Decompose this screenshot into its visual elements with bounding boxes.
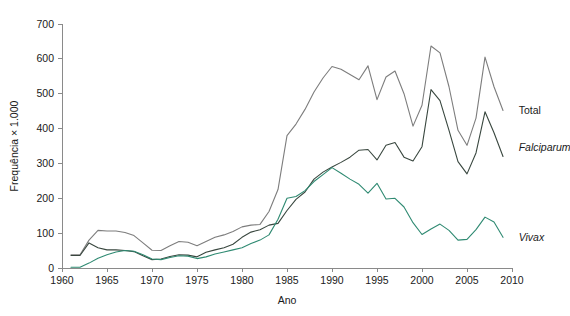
x-tick-label: 1970 bbox=[140, 274, 164, 286]
x-tick-label: 2000 bbox=[410, 274, 434, 286]
y-tick-label: 500 bbox=[36, 87, 54, 99]
series-line-falciparum bbox=[71, 90, 503, 260]
x-tick-label: 2005 bbox=[455, 274, 479, 286]
x-tick-label: 2010 bbox=[500, 274, 524, 286]
y-axis-ticks: 0100200300400500600700 bbox=[36, 18, 62, 274]
x-axis-ticks: 1960196519701975198019851990199520002005… bbox=[50, 268, 524, 286]
y-tick-label: 200 bbox=[36, 192, 54, 204]
series-label-total: Total bbox=[519, 104, 541, 116]
line-chart-svg: 0100200300400500600700 19601965197019751… bbox=[0, 0, 570, 316]
series-labels-group: TotalFalciparumVivax bbox=[519, 104, 570, 243]
x-tick-label: 1985 bbox=[275, 274, 299, 286]
y-tick-label: 300 bbox=[36, 157, 54, 169]
series-line-total bbox=[71, 46, 503, 255]
x-tick-label: 1995 bbox=[365, 274, 389, 286]
series-line-vivax bbox=[71, 168, 503, 268]
chart-figure: 0100200300400500600700 19601965197019751… bbox=[0, 0, 570, 316]
y-tick-label: 700 bbox=[36, 18, 54, 30]
x-tick-label: 1980 bbox=[230, 274, 254, 286]
x-tick-label: 1990 bbox=[320, 274, 344, 286]
y-tick-label: 0 bbox=[48, 262, 54, 274]
series-label-falciparum: Falciparum bbox=[519, 141, 570, 153]
y-tick-label: 100 bbox=[36, 227, 54, 239]
y-tick-label: 600 bbox=[36, 52, 54, 64]
x-tick-label: 1975 bbox=[185, 274, 209, 286]
series-label-vivax: Vivax bbox=[519, 231, 545, 243]
x-tick-label: 1960 bbox=[50, 274, 74, 286]
series-group bbox=[71, 46, 503, 267]
axes-group: 0100200300400500600700 19601965197019751… bbox=[36, 18, 523, 286]
y-tick-label: 400 bbox=[36, 122, 54, 134]
y-axis-title: Frequência × 1.000 bbox=[8, 100, 20, 191]
x-tick-label: 1965 bbox=[95, 274, 119, 286]
x-axis-title: Ano bbox=[278, 294, 297, 306]
